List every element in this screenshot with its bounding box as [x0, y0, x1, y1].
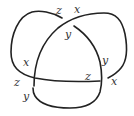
label-left-x: x — [23, 56, 30, 69]
label-top-z: z — [55, 4, 62, 17]
label-right-x: x — [111, 75, 118, 88]
label-left-y: y — [22, 90, 30, 103]
arc-labels: z x y x y z z x y — [13, 3, 118, 103]
label-inner-top-y: y — [64, 28, 72, 41]
knot-diagram: z x y x y z z x y — [0, 0, 134, 116]
label-left-z: z — [13, 76, 20, 89]
label-top-x: x — [74, 3, 81, 16]
label-right-y: y — [101, 54, 109, 67]
label-inner-bottom-z: z — [84, 70, 91, 83]
